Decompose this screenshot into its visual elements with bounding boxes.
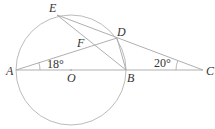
label-b: B	[127, 71, 135, 85]
label-e: E	[48, 1, 57, 15]
angle-label-a: 18°	[47, 57, 64, 71]
segment-db	[117, 38, 126, 70]
label-a: A	[5, 64, 14, 78]
label-f: F	[76, 36, 85, 50]
angle-label-c: 20°	[154, 56, 171, 70]
label-c: C	[206, 64, 215, 78]
geometry-diagram: E D F A O B C 18° 20°	[0, 0, 215, 129]
angle-arc-a	[39, 63, 40, 70]
angle-arc-c	[176, 61, 178, 70]
segment-ad	[16, 38, 117, 70]
label-o: O	[67, 71, 76, 85]
segment-eb	[57, 15, 126, 70]
label-d: D	[116, 25, 126, 39]
